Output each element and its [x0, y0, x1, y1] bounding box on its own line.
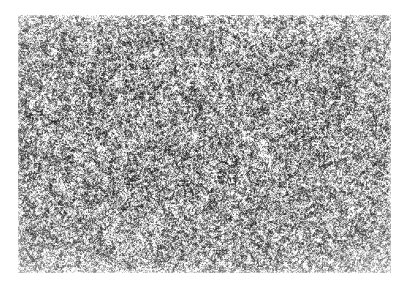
micrograph-plate — [18, 15, 391, 273]
micrograph-image — [18, 15, 391, 273]
figure-page — [0, 0, 409, 285]
